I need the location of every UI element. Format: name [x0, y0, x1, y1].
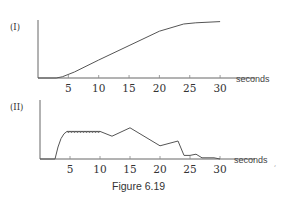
- panel-1: (I) 51015202530 seconds: [10, 20, 270, 94]
- x-tick-label: 30: [213, 163, 226, 175]
- figure-canvas: (I) 51015202530 seconds (II) 51015202530…: [0, 0, 290, 204]
- panel-2: (II) 51015202530 seconds: [10, 100, 268, 175]
- x-tick-label: 5: [65, 82, 72, 94]
- panel-2-xlabel: seconds: [234, 155, 268, 165]
- x-tick-label: 15: [122, 82, 135, 94]
- x-tick-label: 25: [183, 82, 196, 94]
- x-tick-label: 10: [92, 82, 105, 94]
- x-tick-label: 5: [67, 163, 74, 175]
- x-tick-label: 20: [153, 82, 166, 94]
- x-tick-label: 20: [153, 163, 166, 175]
- panel-1-curve: [38, 22, 220, 78]
- x-tick-label: 10: [93, 163, 106, 175]
- x-tick-label: 30: [213, 82, 226, 94]
- panel-1-xlabel: seconds: [236, 74, 270, 84]
- panel-1-label: (I): [10, 22, 20, 32]
- stray-mark: ,: [274, 160, 276, 168]
- x-tick-label: 25: [183, 163, 196, 175]
- figure-caption: Figure 6.19: [112, 180, 165, 192]
- x-tick-label: 15: [123, 163, 136, 175]
- panel-2-label: (II): [10, 102, 23, 112]
- panel-2-curve: [40, 128, 220, 159]
